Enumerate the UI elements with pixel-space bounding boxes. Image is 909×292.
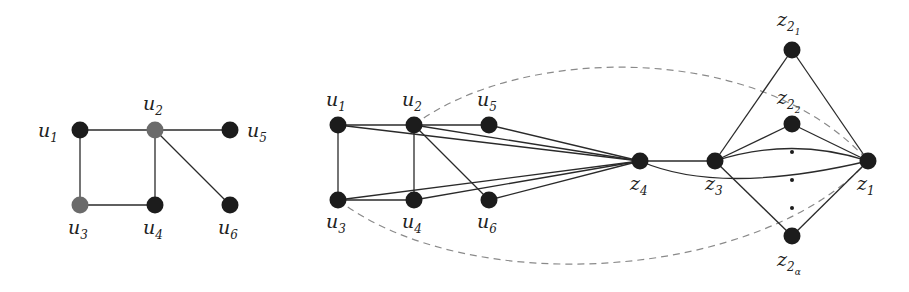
right-node-z3 (707, 153, 724, 170)
right-node-z2a (784, 228, 801, 245)
right-node-u4 (406, 192, 423, 209)
edge-z21-z1 (792, 50, 868, 161)
ellipsis-dot-2 (790, 206, 794, 210)
right-label-u1: u1 (326, 88, 346, 114)
right-node-u3 (330, 192, 347, 209)
dashed-curve-u3-z1 (338, 161, 868, 264)
left-graph: u1u2u5u3u4u6 (38, 92, 267, 242)
left-label-u2: u2 (143, 92, 163, 118)
ellipsis-dots (790, 150, 794, 210)
left-label-u5: u5 (247, 119, 267, 145)
right-node-z1 (860, 153, 877, 170)
right-node-z4 (632, 153, 649, 170)
edge-u6-z4 (489, 161, 640, 200)
edge-z22-z1 (792, 124, 868, 161)
edge-z3-z22 (715, 124, 792, 161)
left-graph-labels: u1u2u5u3u4u6 (38, 92, 267, 242)
right-label-z21: z21 (776, 8, 800, 37)
left-node-u1 (72, 122, 89, 139)
left-node-u3 (72, 197, 89, 214)
right-graph-edges (338, 50, 868, 236)
right-node-u5 (481, 117, 498, 134)
right-label-u6: u6 (477, 210, 497, 236)
left-label-u6: u6 (218, 216, 238, 242)
edge-u2-z4 (414, 125, 640, 161)
left-label-u3: u3 (68, 216, 88, 242)
left-node-u5 (222, 122, 239, 139)
edge-u2-u6 (155, 130, 230, 205)
right-node-u1 (330, 117, 347, 134)
ellipsis-dot-1 (790, 178, 794, 182)
ellipsis-dot-0 (790, 150, 794, 154)
right-label-u3: u3 (326, 210, 346, 236)
left-node-u4 (147, 197, 164, 214)
right-node-z21 (784, 42, 801, 59)
right-label-z2a: z2α (776, 248, 801, 277)
left-node-u2 (147, 122, 164, 139)
edge-u4-z4 (414, 161, 640, 200)
edge-z3-z2a (715, 161, 792, 236)
left-label-u4: u4 (143, 216, 163, 242)
right-label-u2: u2 (402, 88, 422, 114)
right-label-u4: u4 (402, 210, 422, 236)
right-graph: u1u2u5u3u4u6z4z3z1z21z22z2α (326, 8, 877, 277)
right-node-z22 (784, 116, 801, 133)
right-label-z22: z22 (776, 86, 801, 115)
right-label-u5: u5 (477, 88, 497, 114)
right-label-z4: z4 (629, 172, 648, 198)
right-node-u2 (406, 117, 423, 134)
graph-figure: u1u2u5u3u4u6 u1u2u5u3u4u6z4z3z1z21z22z2α (0, 0, 909, 292)
right-label-z1: z1 (856, 172, 875, 198)
right-label-z3: z3 (704, 172, 723, 198)
left-label-u1: u1 (38, 119, 58, 145)
right-node-u6 (481, 192, 498, 209)
curved-edge-z4-z1 (640, 161, 868, 179)
left-node-u6 (222, 197, 239, 214)
left-graph-edges (80, 130, 230, 205)
edge-u5-z4 (489, 125, 640, 161)
